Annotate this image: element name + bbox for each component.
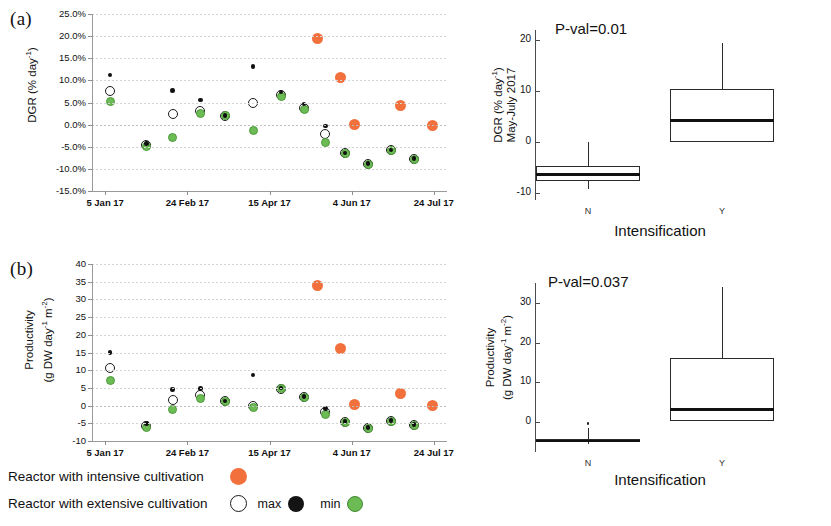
x-tick-label: 15 Apr 17 [230,447,310,458]
boxplot-y-tick-mark [536,40,540,41]
data-point-max [251,64,256,69]
boxplot-whisker-lower [588,181,589,189]
data-point-max [223,113,228,118]
gridline [92,388,447,389]
data-point-min [300,105,309,114]
boxplot-outlier [587,422,590,425]
data-point-max [412,156,417,161]
x-tick-mark [187,191,188,195]
figure-root: (a) 25.0%20.0%15.0%10.0%5.0%0.0%-5.0%-10… [0,0,831,526]
y-tick-label: 15.0% [36,53,86,62]
gridline [92,147,447,148]
data-point-max-open [168,109,178,119]
boxplot-category-label: N [568,206,608,216]
boxplot-median-line [536,173,640,175]
data-point-max [302,394,307,399]
gridline [92,58,447,59]
data-point-max-open [105,86,115,96]
boxplot-y-tick-label: 20 [501,337,531,347]
data-point-intensive [312,33,323,44]
x-tick-mark [352,441,353,445]
gridline [92,299,447,300]
legend-label-min: min [320,497,340,511]
boxplot-y-tick-mark [536,91,540,92]
y-tick-label: 5.0% [36,98,86,107]
y-tick-label: 25.0% [36,9,86,18]
legend-label-max: max [258,497,282,511]
gridline [92,353,447,354]
x-tick-mark [105,191,106,195]
legend: Reactor with intensive cultivation React… [0,466,470,524]
gridline [92,264,447,265]
boxplot-y-tick-label: 20 [501,34,531,44]
boxplot-whisker-upper [588,142,589,166]
gridline [92,103,447,104]
x-tick-mark [352,191,353,195]
data-point-max-open [168,395,178,405]
panel-b-scatter: 4035302520151050-5-10 5 Jan 1724 Feb 171… [0,250,470,475]
y-title-line1: Productivity [22,265,37,415]
data-point-min [196,109,205,118]
boxplot-y-tick-mark [536,343,540,344]
gridline [92,36,447,37]
x-tick-label: 4 Jun 17 [312,197,392,208]
gridline [92,370,447,371]
data-point-max [323,406,328,411]
boxplot-y-tick-mark [536,303,540,304]
y-axis-line [92,14,93,191]
data-point-min [106,376,115,385]
gridline [92,406,447,407]
gridline [92,423,447,424]
gridline [92,169,447,170]
boxplot-category-label: Y [702,458,742,468]
open-circle-icon [230,495,247,512]
panel-b-boxplot-x-title: Intensification [520,471,800,488]
boxplot-category-label: N [568,458,608,468]
y-tick-label: 0.0% [36,120,86,129]
boxplot-whisker-lower [588,442,589,444]
panel-a-y-axis-title: DGR (% day-1) [24,20,38,150]
boxplot-whisker-upper [722,43,723,89]
boxplot-y-tick-label: 30 [501,297,531,307]
y-title-superscript: -1 [24,51,33,58]
x-tick-label: 4 Jun 17 [312,447,392,458]
y-tick-label: -10.0% [36,164,86,173]
data-point-min [321,410,330,419]
legend-label-extensive: Reactor with extensive cultivation [8,496,208,511]
boxplot-median-line [536,440,640,442]
boxplot-y-tick-mark [536,193,540,194]
data-point-max [389,418,394,423]
panel-b-y-axis-title: Productivity(g DW day-1 m-2) [22,265,56,415]
y-tick-label: 20.0% [36,31,86,40]
panel-a-boxplot: DGR (% day-1)May-July 2017 20100-10 NY P… [470,0,831,250]
panel-a-scatter: 25.0%20.0%15.0%10.0%5.0%0.0%-5.0%-10.0%-… [0,0,470,225]
data-point-max [198,98,203,103]
black-filled-circle-icon [288,496,304,512]
x-tick-label: 5 Jan 17 [65,447,145,458]
boxplot-y-tick-mark [536,422,540,423]
data-point-min [168,133,177,142]
panel-b-boxplot: Productivity(g DW day-1 m-2) 3020100 NY … [470,255,831,505]
x-tick-label: 24 Feb 17 [147,197,227,208]
gridline [92,80,447,81]
x-tick-label: 24 Jul 17 [394,447,474,458]
y-tick-label: -5.0% [36,142,86,151]
x-tick-mark [187,441,188,445]
y-tick-label: -15.0% [36,186,86,195]
x-tick-mark [434,191,435,195]
data-point-min [249,403,258,412]
orange-filled-circle-icon [230,468,247,485]
y-tick-label: -5 [36,418,86,427]
boxplot-y-tick-label: 0 [501,416,531,426]
boxplot-y-tick-mark [536,382,540,383]
data-point-max [144,141,149,146]
boxplot-median-line [670,408,774,410]
panel-b-pvalue-label: P-val=0.037 [548,273,628,290]
boxplot-box [670,358,774,421]
boxplot-y-tick-mark [536,142,540,143]
boxplot-category-label: Y [702,206,742,216]
x-tick-label: 15 Apr 17 [230,197,310,208]
legend-label-intensive: Reactor with intensive cultivation [8,469,204,484]
x-tick-label: 24 Feb 17 [147,447,227,458]
panel-a-boxplot-x-title: Intensification [520,222,800,239]
